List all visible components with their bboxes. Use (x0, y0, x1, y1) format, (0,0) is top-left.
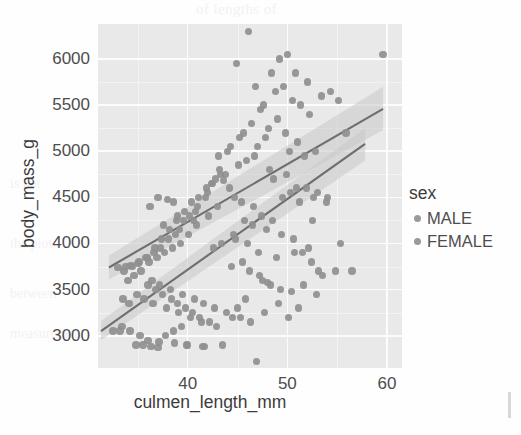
data-point (239, 258, 246, 265)
x-axis-tick-label: 50 (257, 374, 317, 394)
legend: sex MALEFEMALE (409, 183, 521, 253)
data-point (118, 323, 125, 330)
y-axis-tick-label: 3500 (38, 280, 90, 300)
data-point (313, 291, 320, 298)
data-point (290, 235, 297, 242)
data-point (151, 244, 158, 251)
data-point (304, 78, 311, 85)
data-point (324, 194, 331, 201)
data-point (153, 254, 160, 261)
data-point (283, 171, 290, 178)
data-point (154, 194, 161, 201)
x-axis-tick-label: 40 (158, 374, 218, 394)
data-point (294, 138, 301, 145)
data-point (264, 279, 271, 286)
data-point (219, 341, 226, 348)
data-point (318, 92, 325, 99)
legend-item-female[interactable]: FEMALE (409, 230, 521, 253)
data-point (226, 184, 233, 191)
data-point (109, 327, 116, 334)
data-point (282, 129, 289, 136)
data-point (137, 267, 144, 274)
data-point (305, 244, 312, 251)
legend-title: sex (409, 183, 521, 203)
x-axis-tick-label: 60 (357, 374, 417, 394)
data-point (270, 175, 277, 182)
data-point (126, 327, 133, 334)
data-point (234, 304, 241, 311)
data-point (235, 161, 242, 168)
y-axis-tick-label: 5000 (38, 141, 90, 161)
legend-marker-icon (409, 207, 425, 230)
data-point (215, 152, 222, 159)
data-point (165, 235, 172, 242)
data-point (122, 263, 129, 270)
data-point (211, 304, 218, 311)
regression-overlay (98, 24, 402, 368)
data-point (125, 300, 132, 307)
data-point (145, 258, 152, 265)
data-point (155, 338, 162, 345)
plot-panel (98, 24, 402, 368)
data-point (308, 258, 315, 265)
data-point (247, 318, 254, 325)
data-point (379, 51, 386, 58)
legend-marker-icon (409, 230, 425, 253)
data-point (146, 203, 153, 210)
data-point (149, 300, 156, 307)
data-point (273, 254, 280, 261)
data-point (303, 184, 310, 191)
data-point (300, 281, 307, 288)
data-point (296, 198, 303, 205)
data-point (136, 332, 143, 339)
legend-dot (414, 215, 421, 222)
data-point (285, 314, 292, 321)
data-point (114, 264, 121, 271)
data-point (205, 212, 212, 219)
data-point (276, 55, 283, 62)
data-point (265, 125, 272, 132)
data-point (158, 235, 165, 242)
data-point (174, 212, 181, 219)
data-point (191, 295, 198, 302)
data-point (246, 267, 253, 274)
data-point (140, 295, 147, 302)
data-point (332, 267, 339, 274)
data-point (134, 260, 141, 267)
data-point (337, 240, 344, 247)
y-axis-tick-label: 4500 (38, 187, 90, 207)
data-point (292, 69, 299, 76)
data-point (297, 101, 304, 108)
data-point (272, 88, 279, 95)
data-point (183, 341, 190, 348)
data-point (242, 295, 249, 302)
data-point (312, 148, 319, 155)
data-point (238, 198, 245, 205)
data-point (249, 221, 256, 228)
x-axis-title: culmen_length_mm (0, 392, 420, 413)
data-point (210, 244, 217, 251)
y-axis-tick-label: 4000 (38, 233, 90, 253)
page-edge-mark (508, 392, 511, 418)
data-point (148, 277, 155, 284)
data-point (301, 152, 308, 159)
data-point (348, 267, 355, 274)
legend-item-male[interactable]: MALE (409, 207, 521, 230)
data-point (268, 69, 275, 76)
legend-item-label: FEMALE (427, 232, 493, 251)
data-point (306, 111, 313, 118)
data-point (274, 115, 281, 122)
data-point (251, 152, 258, 159)
data-point (258, 212, 265, 219)
data-point (327, 88, 334, 95)
y-axis-tick-label: 5500 (38, 95, 90, 115)
y-axis-tick-label: 3000 (38, 326, 90, 346)
data-point (342, 129, 349, 136)
legend-entries: MALEFEMALE (409, 207, 521, 253)
y-axis-tick-label: 6000 (38, 49, 90, 69)
data-point (130, 272, 137, 279)
data-point (309, 217, 316, 224)
data-point (144, 337, 151, 344)
scatter-plot-figure: of lengths of is not the plot between me… (0, 0, 521, 435)
legend-item-label: MALE (427, 209, 472, 228)
